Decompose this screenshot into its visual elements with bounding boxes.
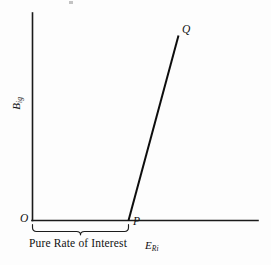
figure-container: O P Q Big ERi Pure Rate of Interest: [0, 0, 271, 265]
y-axis-label: Big: [11, 97, 24, 110]
pure-rate-brace: [33, 225, 129, 235]
label-origin: O: [20, 213, 28, 225]
y-axis-label-subscript: ig: [15, 97, 24, 103]
y-axis-label-base: B: [10, 103, 22, 110]
label-point-p: P: [133, 216, 140, 228]
brace-caption: Pure Rate of Interest: [29, 238, 127, 250]
x-axis-label: ERi: [145, 240, 159, 253]
supply-curve-segment-pq: [129, 36, 179, 221]
x-axis-label-base: E: [145, 239, 152, 251]
label-point-q: Q: [182, 24, 190, 36]
x-axis-label-subscript: Ri: [152, 244, 159, 253]
